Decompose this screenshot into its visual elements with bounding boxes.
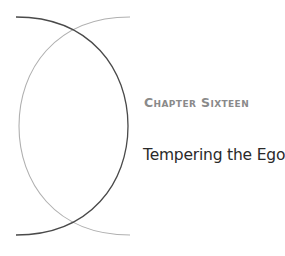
light-arc [19, 17, 130, 235]
chapter-number-label: Chapter Sixteen [144, 95, 249, 110]
interlocking-arcs-decoration [0, 0, 285, 256]
chapter-title: Tempering the Ego [143, 146, 285, 164]
dark-arc [16, 17, 128, 235]
